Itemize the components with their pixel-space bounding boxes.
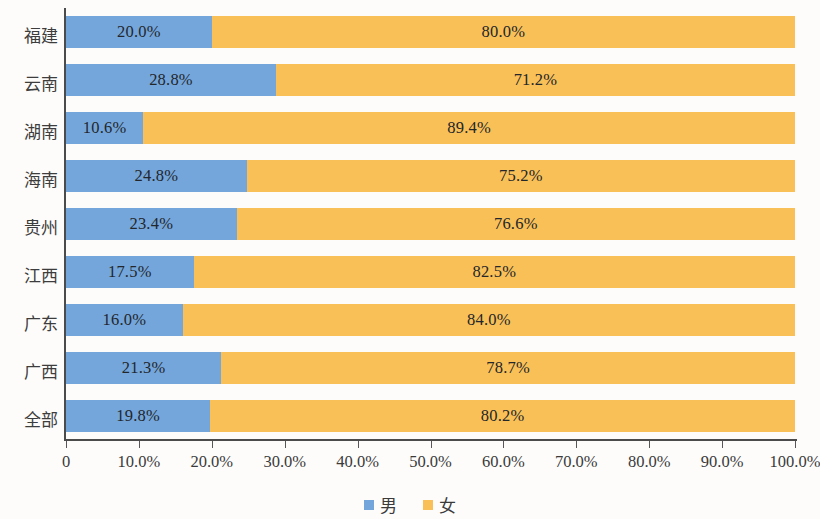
x-axis-tick-label: 40.0% (336, 452, 379, 472)
bar-value-label-female: 75.2% (499, 166, 543, 186)
category-label: 云南 (0, 70, 58, 95)
bar-segment-female: 78.7% (221, 352, 795, 384)
category-label: 福建 (0, 22, 58, 47)
square-swatch-blue-icon (364, 500, 374, 510)
x-axis-tick-label: 10.0% (118, 452, 161, 472)
x-axis-tick (66, 441, 67, 448)
bar-segment-male: 28.8% (66, 64, 276, 96)
category-label: 广西 (0, 358, 58, 383)
legend-label: 男 (380, 492, 397, 517)
bar-row: 28.8%71.2% (66, 64, 795, 96)
category-label: 全部 (0, 406, 58, 431)
x-axis-tick (139, 441, 140, 448)
x-axis-tick (795, 441, 796, 448)
category-label: 江西 (0, 262, 58, 287)
bar-segment-male: 16.0% (66, 304, 183, 336)
bar-segment-male: 17.5% (66, 256, 194, 288)
x-axis-tick-label: 0 (62, 452, 70, 472)
x-axis-tick (431, 441, 432, 448)
bar-row: 17.5%82.5% (66, 256, 795, 288)
bar-value-label-male: 20.0% (117, 22, 161, 42)
x-axis-tick-label: 60.0% (482, 452, 525, 472)
bar-segment-male: 23.4% (66, 208, 237, 240)
bar-segment-female: 76.6% (237, 208, 795, 240)
bar-segment-female: 71.2% (276, 64, 795, 96)
category-label: 广东 (0, 310, 58, 335)
bar-row: 19.8%80.2% (66, 400, 795, 432)
bar-value-label-female: 82.5% (472, 262, 516, 282)
bar-value-label-male: 19.8% (116, 406, 160, 426)
x-axis-tick (212, 441, 213, 448)
x-axis-tick-label: 70.0% (555, 452, 598, 472)
bar-row: 21.3%78.7% (66, 352, 795, 384)
bar-segment-male: 24.8% (66, 160, 247, 192)
x-axis-tick-label: 50.0% (409, 452, 452, 472)
bar-value-label-male: 16.0% (103, 310, 147, 330)
x-axis-tick-label: 80.0% (628, 452, 671, 472)
x-axis-tick-label: 30.0% (263, 452, 306, 472)
bar-value-label-male: 21.3% (122, 358, 166, 378)
x-axis-tick-label: 20.0% (190, 452, 233, 472)
bar-value-label-female: 80.0% (482, 22, 526, 42)
category-label: 贵州 (0, 214, 58, 239)
bar-segment-female: 89.4% (143, 112, 795, 144)
bar-segment-male: 20.0% (66, 16, 212, 48)
plot-area: 20.0%80.0%28.8%71.2%10.6%89.4%24.8%75.2%… (66, 8, 795, 440)
category-label: 海南 (0, 166, 58, 191)
bar-value-label-female: 84.0% (467, 310, 511, 330)
bar-value-label-male: 24.8% (135, 166, 179, 186)
bar-row: 23.4%76.6% (66, 208, 795, 240)
legend-item[interactable]: 女 (423, 492, 456, 517)
x-axis-tick (649, 441, 650, 448)
bar-value-label-male: 23.4% (129, 214, 173, 234)
bar-segment-male: 21.3% (66, 352, 221, 384)
bar-segment-female: 84.0% (183, 304, 795, 336)
bar-row: 16.0%84.0% (66, 304, 795, 336)
bar-value-label-male: 10.6% (83, 118, 127, 138)
bar-value-label-female: 89.4% (447, 118, 491, 138)
category-label: 湖南 (0, 118, 58, 143)
bar-segment-female: 80.0% (212, 16, 795, 48)
legend-label: 女 (439, 492, 456, 517)
bar-segment-female: 82.5% (194, 256, 795, 288)
chart-legend: 男女 (0, 492, 820, 517)
square-swatch-orange-icon (423, 500, 433, 510)
bar-row: 24.8%75.2% (66, 160, 795, 192)
bar-value-label-female: 80.2% (481, 406, 525, 426)
bar-value-label-male: 28.8% (149, 70, 193, 90)
x-axis-tick (722, 441, 723, 448)
bar-segment-female: 80.2% (210, 400, 795, 432)
x-axis-tick (503, 441, 504, 448)
bar-row: 20.0%80.0% (66, 16, 795, 48)
x-axis-tick (576, 441, 577, 448)
x-axis-tick-label: 90.0% (701, 452, 744, 472)
x-axis-tick (285, 441, 286, 448)
bar-row: 10.6%89.4% (66, 112, 795, 144)
bar-segment-male: 10.6% (66, 112, 143, 144)
bar-value-label-female: 76.6% (494, 214, 538, 234)
bar-segment-female: 75.2% (247, 160, 795, 192)
x-axis-tick (358, 441, 359, 448)
bar-segment-male: 19.8% (66, 400, 210, 432)
bar-value-label-female: 78.7% (486, 358, 530, 378)
legend-item[interactable]: 男 (364, 492, 397, 517)
bar-value-label-female: 71.2% (514, 70, 558, 90)
x-axis-tick-label: 100.0% (770, 452, 820, 472)
bar-value-label-male: 17.5% (108, 262, 152, 282)
stacked-bar-chart: 010.0%20.0%30.0%40.0%50.0%60.0%70.0%80.0… (0, 0, 820, 519)
